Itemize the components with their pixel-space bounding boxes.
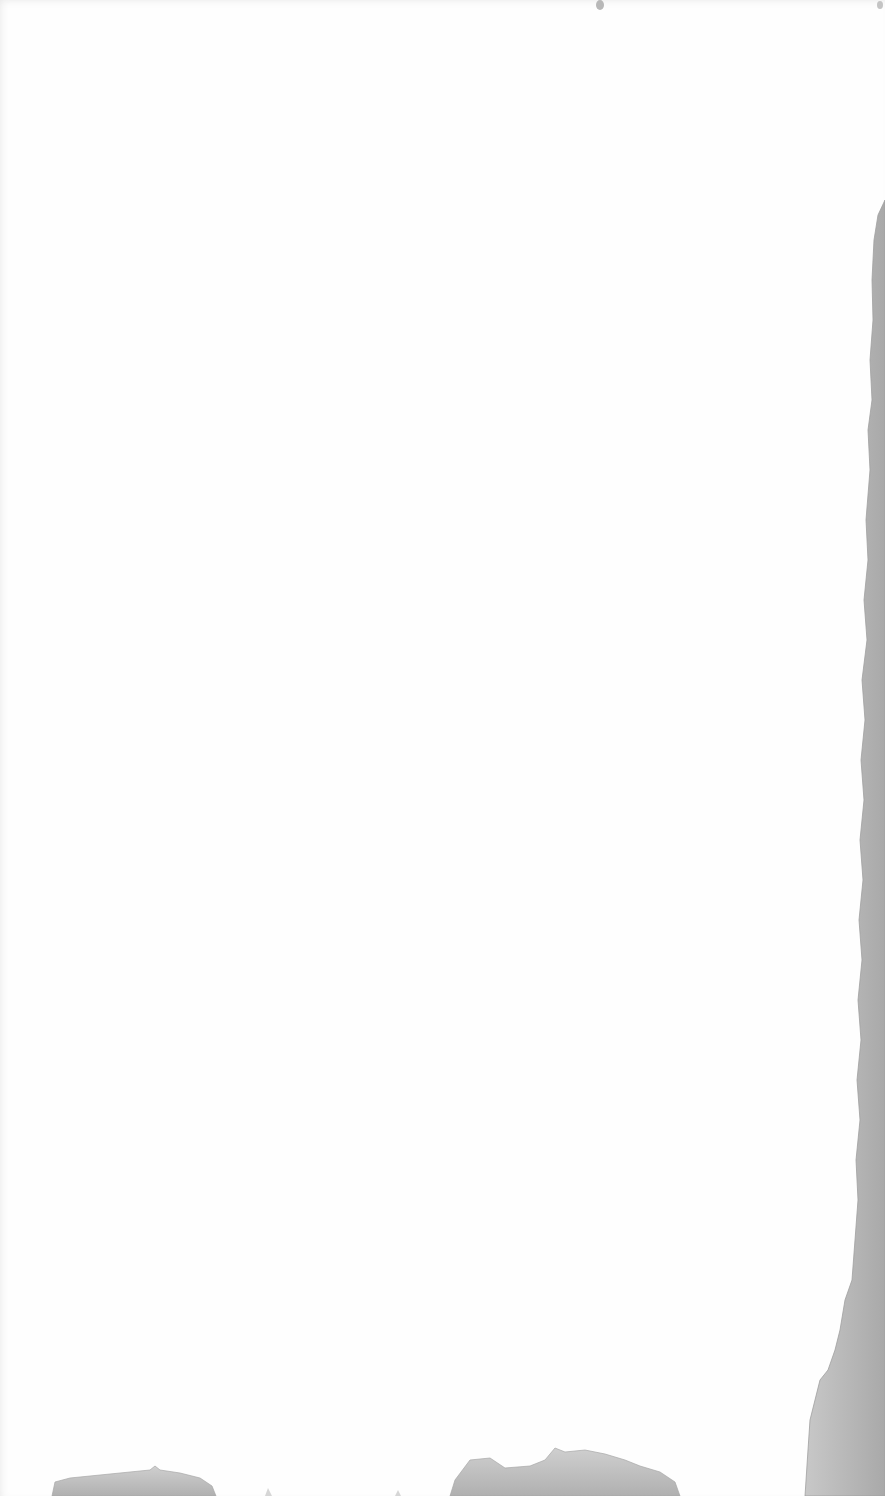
top-right-speck-stain: [877, 1, 883, 9]
bottom-stain-middle: [450, 1448, 680, 1496]
blank-paper-page: [0, 0, 885, 1496]
bottom-stain-dot-1: [265, 1488, 272, 1496]
right-edge-stain: [805, 200, 885, 1496]
bottom-stain-dot-2: [395, 1490, 401, 1496]
edge-stain-decoration: [0, 0, 885, 1496]
top-speck-stain: [596, 0, 604, 10]
bottom-stain-left: [52, 1466, 216, 1496]
